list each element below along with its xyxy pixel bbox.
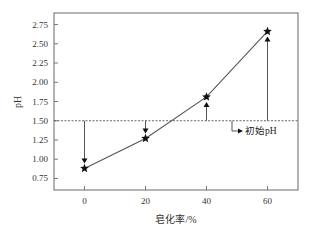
x-axis: 0204060 (82, 186, 272, 206)
plot-frame (54, 13, 298, 190)
change-arrows (82, 36, 271, 163)
y-axis-title: pH (12, 96, 23, 108)
y-tick-label: 1.75 (32, 97, 48, 107)
y-tick-label: 2.75 (32, 20, 48, 30)
y-tick-label: 2.25 (32, 58, 48, 68)
y-tick-label: 1.50 (32, 116, 48, 126)
y-tick-label: 2.00 (32, 77, 48, 87)
ph-series (80, 27, 272, 172)
x-axis-title: 皂化率/% (155, 213, 196, 225)
star-marker-icon (141, 134, 150, 142)
arrow-down-icon (143, 128, 149, 133)
arrow-up-icon (265, 36, 271, 41)
y-tick-label: 1.25 (32, 135, 48, 145)
annotation-leader (232, 121, 239, 131)
y-tick-label: 1.00 (32, 154, 48, 164)
x-tick-label: 40 (202, 196, 212, 206)
y-axis: 0.751.001.251.501.752.002.252.502.75 (32, 20, 58, 184)
initial-ph-annotation: 初始pH (245, 125, 277, 136)
x-tick-label: 0 (82, 196, 87, 206)
x-tick-label: 60 (263, 196, 273, 206)
plot-border (54, 13, 298, 190)
initial-ph-label: 初始pH (245, 125, 277, 136)
y-tick-label: 0.75 (32, 173, 48, 183)
chart-canvas: 0.751.001.251.501.752.002.252.502.75 020… (0, 0, 313, 230)
arrow-up-icon (204, 102, 210, 107)
arrow-down-icon (82, 158, 88, 163)
y-tick-label: 2.50 (32, 39, 48, 49)
series-line (85, 31, 268, 168)
x-tick-label: 20 (141, 196, 151, 206)
star-marker-icon (263, 27, 272, 35)
arrow-right-icon (238, 129, 243, 134)
star-marker-icon (80, 164, 89, 172)
